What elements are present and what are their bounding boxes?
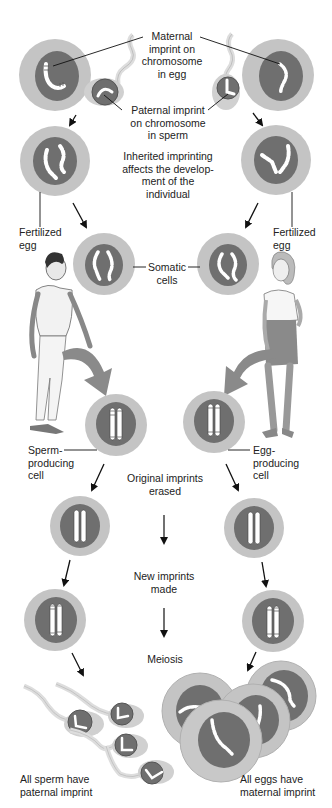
label-line: erased: [120, 485, 210, 498]
all-eggs-label: All eggs have maternal imprint: [240, 773, 315, 798]
label-line: Fertilized: [19, 226, 62, 239]
label-line: Meiosis: [140, 653, 190, 666]
somatic-cell-left: [73, 233, 135, 295]
egg-producing-cell-label: Egg- producing cell: [253, 444, 299, 482]
label-line: All sperm have: [20, 773, 92, 786]
sperm-producing-cell-label: Sperm- producing cell: [28, 444, 74, 482]
label-line: New imprints: [124, 570, 204, 583]
new-imprint-cell-right: [242, 590, 304, 652]
male-germline-arrow: [62, 348, 112, 396]
label-line: Inherited imprinting: [112, 150, 224, 163]
label-line: made: [124, 583, 204, 596]
label-line: Maternal: [126, 30, 218, 43]
maternal-imprint-label: Maternal imprint on chromosome in egg: [126, 30, 218, 80]
label-line: All eggs have: [240, 773, 315, 786]
fertilized-egg-right: [241, 125, 311, 195]
imprints-erased-label: Original imprints erased: [120, 472, 210, 497]
label-line: Sperm-: [28, 444, 74, 457]
inherited-imprinting-label: Inherited imprinting affects the develop…: [112, 150, 224, 200]
imprinting-diagram: Maternal imprint on chromosome in egg Pa…: [0, 0, 332, 808]
new-imprints-label: New imprints made: [124, 570, 204, 595]
label-line: Somatic: [146, 261, 188, 274]
fertilized-egg-left: [20, 126, 90, 196]
label-line: in sperm: [120, 129, 216, 142]
label-line: cell: [253, 469, 299, 482]
fertilized-egg-right-label: Fertilized egg: [273, 226, 316, 251]
label-line: ment of the: [112, 175, 224, 188]
label-line: paternal imprint: [20, 786, 92, 799]
egg-producing-cell: [183, 391, 245, 453]
egg-cell-top-left: [19, 39, 91, 111]
woman-figure: [262, 252, 301, 438]
label-line: imprint on: [126, 43, 218, 56]
label-line: cell: [28, 469, 74, 482]
label-line: Egg-: [253, 444, 299, 457]
label-line: producing: [253, 457, 299, 470]
sperm-producing-cell: [85, 394, 147, 456]
label-line: in egg: [126, 68, 218, 81]
label-line: egg: [273, 239, 316, 252]
label-line: chromosome: [126, 55, 218, 68]
label-line: maternal imprint: [240, 786, 315, 799]
label-line: on chromosome: [120, 117, 216, 130]
erased-cell-right: [224, 498, 284, 558]
new-imprint-cell-left: [24, 589, 86, 651]
label-line: Fertilized: [273, 226, 316, 239]
somatic-cell-right: [197, 233, 259, 295]
sperm-cluster: [24, 684, 174, 784]
label-line: cells: [146, 274, 188, 287]
somatic-cells-label: Somatic cells: [146, 261, 188, 286]
meiosis-label: Meiosis: [140, 653, 190, 666]
label-line: egg: [19, 239, 62, 252]
fertilized-egg-left-label: Fertilized egg: [19, 226, 62, 251]
label-line: individual: [112, 188, 224, 201]
egg-cluster: [162, 661, 316, 782]
paternal-imprint-label: Paternal imprint on chromosome in sperm: [120, 104, 216, 142]
all-sperm-label: All sperm have paternal imprint: [20, 773, 92, 798]
label-line: Paternal imprint: [120, 104, 216, 117]
label-line: producing: [28, 457, 74, 470]
erased-cell-left: [50, 496, 110, 556]
label-line: affects the develop-: [112, 163, 224, 176]
label-line: Original imprints: [120, 472, 210, 485]
egg-cell-top-right: [242, 39, 314, 111]
